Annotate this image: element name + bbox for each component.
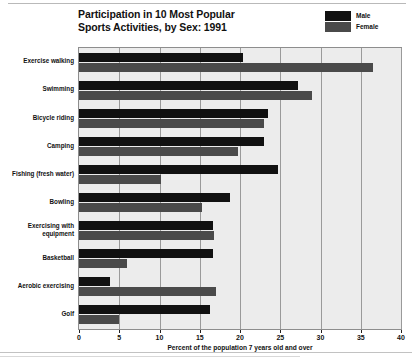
x-axis-title: Percent of the population 7 years old an… — [78, 344, 402, 351]
bar-female — [79, 203, 202, 212]
bar-female — [79, 315, 119, 324]
y-axis-label: Aerobic exercising — [0, 282, 74, 290]
plot-area — [78, 47, 402, 330]
bar-female — [79, 119, 264, 128]
y-axis-label: Bowling — [0, 198, 74, 206]
bar-male — [79, 193, 230, 202]
x-tick-mark — [200, 330, 201, 333]
scan-rule-bottom-secondary — [0, 356, 300, 357]
legend-entry-female: Female — [325, 21, 378, 32]
y-axis-label: Bicycle riding — [0, 114, 74, 122]
bar-male — [79, 305, 210, 314]
x-tick-label: 5 — [117, 334, 121, 341]
bar-female — [79, 231, 214, 240]
x-tick-mark — [321, 330, 322, 333]
bar-male — [79, 249, 213, 258]
x-tick-mark — [79, 330, 80, 333]
bar-female — [79, 91, 312, 100]
bar-female — [79, 63, 373, 72]
y-axis-label: Swimming — [0, 85, 74, 93]
x-tick-label: 10 — [156, 334, 164, 341]
bar-male — [79, 81, 298, 90]
bar-female — [79, 147, 238, 156]
bars-layer — [79, 48, 401, 329]
x-tick-label: 0 — [77, 334, 81, 341]
legend-swatch-female — [325, 22, 351, 32]
bar-female — [79, 259, 127, 268]
y-axis-label: Exercise walking — [0, 57, 74, 65]
legend-swatch-male — [325, 11, 351, 21]
chart-title-line-2: Sports Activities, by Sex: 1991 — [78, 21, 318, 34]
bar-male — [79, 137, 264, 146]
x-tick-label: 25 — [276, 334, 284, 341]
x-tick-mark — [240, 330, 241, 333]
chart-title-line-1: Participation in 10 Most Popular — [78, 8, 318, 21]
bar-female — [79, 175, 161, 184]
bar-male — [79, 221, 213, 230]
gridline — [401, 48, 402, 329]
x-tick-label: 20 — [236, 334, 244, 341]
y-axis-label: Camping — [0, 142, 74, 150]
y-axis-label: Exercising withequipment — [0, 222, 74, 237]
chart-figure: Participation in 10 Most Popular Sports … — [0, 0, 412, 364]
y-axis-label: Fishing (fresh water) — [0, 170, 74, 178]
scan-rule-bottom — [0, 352, 412, 353]
bar-male — [79, 53, 243, 62]
x-tick-label: 40 — [397, 334, 405, 341]
x-tick-mark — [361, 330, 362, 333]
x-tick-mark — [119, 330, 120, 333]
bar-female — [79, 287, 216, 296]
legend-label-female: Female — [356, 23, 378, 30]
x-tick-mark — [160, 330, 161, 333]
x-tick-label: 35 — [357, 334, 365, 341]
x-tick-label: 30 — [317, 334, 325, 341]
bar-male — [79, 277, 110, 286]
chart-title: Participation in 10 Most Popular Sports … — [78, 8, 318, 33]
x-tick-label: 15 — [196, 334, 204, 341]
x-tick-mark — [401, 330, 402, 333]
chart-legend: Male Female — [325, 9, 409, 37]
legend-label-male: Male — [356, 12, 370, 19]
y-axis-label: Basketball — [0, 254, 74, 262]
x-tick-mark — [280, 330, 281, 333]
bar-male — [79, 165, 278, 174]
bar-male — [79, 109, 268, 118]
legend-entry-male: Male — [325, 10, 370, 21]
y-axis-label: Golf — [0, 310, 74, 318]
y-axis-category-labels: Exercise walkingSwimmingBicycle ridingCa… — [0, 47, 74, 330]
scan-rule-top — [8, 3, 406, 4]
